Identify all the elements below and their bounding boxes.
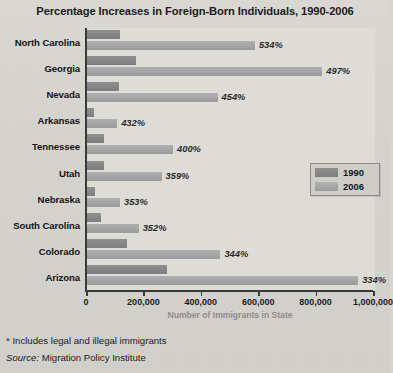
bar-row: Nevada454% xyxy=(0,81,390,107)
bar-row: Arizona334% xyxy=(0,264,390,290)
category-label: North Carolina xyxy=(0,37,80,48)
bar-2006 xyxy=(87,198,120,207)
bar-row: South Carolina352% xyxy=(0,212,390,238)
category-label: Nevada xyxy=(0,89,80,100)
x-tick-mark xyxy=(201,291,203,296)
bar-1990 xyxy=(87,134,104,143)
bar-value-label: 334% xyxy=(362,275,386,285)
bar-2006 xyxy=(87,250,220,259)
category-label: South Carolina xyxy=(0,220,80,231)
bar-1990 xyxy=(87,239,127,248)
x-tick-label: 200,000 xyxy=(127,297,160,307)
legend-item-2006: 2006 xyxy=(315,181,375,192)
legend-label-1990: 1990 xyxy=(343,167,364,178)
bar-2006 xyxy=(87,224,139,233)
source-prefix: Source: xyxy=(6,352,39,363)
bar-2006 xyxy=(87,172,162,181)
bar-row: Tennessee400% xyxy=(0,133,390,159)
category-label: Utah xyxy=(0,168,80,179)
bar-1990 xyxy=(87,161,104,170)
chart-legend: 1990 2006 xyxy=(310,163,380,196)
x-tick-mark xyxy=(373,291,375,296)
legend-swatch-2006 xyxy=(315,182,338,191)
x-axis-label: Number of Immigrants in State xyxy=(85,310,375,320)
bar-value-label: 534% xyxy=(259,40,283,50)
bar-2006 xyxy=(87,119,117,128)
x-tick-mark xyxy=(316,291,318,296)
bar-2006 xyxy=(87,41,255,50)
bar-value-label: 344% xyxy=(224,249,248,259)
bar-row: Colorado344% xyxy=(0,238,390,264)
bar-value-label: 359% xyxy=(166,171,190,181)
category-label: Nebraska xyxy=(0,194,80,205)
bar-value-label: 400% xyxy=(177,144,201,154)
x-tick-mark xyxy=(86,291,88,296)
category-label: Tennessee xyxy=(0,141,80,152)
footnote-note: * Includes legal and illegal immigrants xyxy=(6,335,167,346)
bar-2006 xyxy=(87,93,218,102)
x-axis-line xyxy=(85,290,373,292)
category-label: Arkansas xyxy=(0,115,80,126)
bar-value-label: 353% xyxy=(124,197,148,207)
bar-value-label: 454% xyxy=(222,92,246,102)
bar-value-label: 432% xyxy=(121,118,145,128)
x-tick-label: 0 xyxy=(83,297,88,307)
x-tick-label: 800,000 xyxy=(299,297,332,307)
bar-row: Arkansas432% xyxy=(0,107,390,133)
source-line: Source: Migration Policy Institute xyxy=(6,352,146,363)
bar-value-label: 497% xyxy=(326,66,350,76)
legend-label-2006: 2006 xyxy=(343,181,364,192)
x-tick-label: 600,000 xyxy=(242,297,275,307)
bar-1990 xyxy=(87,213,101,222)
page-title: Percentage Increases in Foreign-Born Ind… xyxy=(0,5,390,17)
bar-value-label: 352% xyxy=(143,223,167,233)
x-tick-label: 1,000,000 xyxy=(353,297,393,307)
x-tick-mark xyxy=(143,291,145,296)
bar-1990 xyxy=(87,82,119,91)
x-tick-mark xyxy=(258,291,260,296)
bar-1990 xyxy=(87,187,95,196)
category-label: Colorado xyxy=(0,246,80,257)
bar-row: North Carolina534% xyxy=(0,29,390,55)
bar-1990 xyxy=(87,108,94,117)
source-name: Migration Policy Institute xyxy=(42,352,146,363)
legend-item-1990: 1990 xyxy=(315,167,375,178)
category-label: Arizona xyxy=(0,272,80,283)
bar-2006 xyxy=(87,145,173,154)
legend-swatch-1990 xyxy=(315,168,338,177)
bar-1990 xyxy=(87,30,120,39)
bar-2006 xyxy=(87,276,358,285)
bar-row: Georgia497% xyxy=(0,55,390,81)
category-label: Georgia xyxy=(0,63,80,74)
x-tick-label: 400,000 xyxy=(185,297,218,307)
bar-1990 xyxy=(87,265,167,274)
bar-2006 xyxy=(87,67,322,76)
bar-1990 xyxy=(87,56,136,65)
